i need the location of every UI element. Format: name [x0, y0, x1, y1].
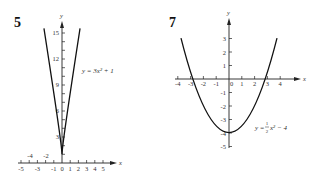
- x-tick-label: -1: [51, 165, 56, 172]
- problem-number-7: 7: [169, 15, 176, 30]
- y-tick-label: -1: [221, 89, 226, 96]
- x-tick-label: 0: [60, 165, 63, 172]
- x-tick-label: -1: [213, 80, 218, 87]
- y-tick-label: -2: [221, 103, 226, 110]
- extra-label: -2: [43, 152, 48, 159]
- x-tick-label: -3: [35, 165, 40, 172]
- x-axis-label: x: [302, 75, 306, 82]
- y-axis-label: y: [59, 12, 63, 19]
- y-tick-label: 1: [223, 62, 226, 69]
- x-tick-label: -2: [201, 80, 206, 87]
- y-tick-label: 3: [56, 133, 59, 140]
- y-tick-label: 15: [53, 29, 60, 36]
- x-tick-label: 1: [240, 80, 243, 87]
- x-tick-label: 3: [266, 80, 269, 87]
- x-tick-label: 3: [85, 165, 88, 172]
- x-tick-label: -3: [188, 80, 193, 87]
- x-tick-label: 2: [77, 165, 80, 172]
- x-tick-label: -4: [175, 80, 181, 87]
- x-tick-label: 0: [230, 80, 233, 87]
- y-tick-label: -5: [221, 143, 226, 150]
- svg-text:y =: y =: [254, 124, 265, 132]
- y-axis-arrow-icon: [227, 18, 231, 25]
- problem-number-5: 5: [14, 15, 21, 30]
- equation-label: y = 3x² + 1: [81, 67, 114, 75]
- chart-problem-7: 7 y 3 2 1 -1 -2 -3 -4 -5 x: [169, 9, 306, 150]
- x-axis-label: x: [118, 159, 122, 166]
- svg-text:1: 1: [266, 121, 269, 126]
- figure-canvas: 5 y 3 6 9 12 15 x: [0, 0, 316, 172]
- y-axis-label: y: [226, 9, 230, 16]
- extra-label: -4: [27, 152, 33, 159]
- y-tick-label: 12: [53, 55, 60, 62]
- y-tick-label: 9: [56, 81, 59, 88]
- x-tick-label: 1: [69, 165, 72, 172]
- y-tick-label: -3: [221, 116, 226, 123]
- x-tick-label: 5: [101, 165, 104, 172]
- chart-problem-5: 5 y 3 6 9 12 15 x: [14, 12, 122, 172]
- x-axis-arrow-icon: [110, 161, 117, 165]
- y-tick-label: 3: [223, 35, 226, 42]
- x-tick-label: 4: [93, 165, 97, 172]
- svg-text:2: 2: [266, 129, 269, 134]
- y-tick-label: 2: [223, 49, 226, 56]
- svg-text:x² − 4: x² − 4: [269, 124, 287, 132]
- x-tick-label: 2: [253, 80, 256, 87]
- x-tick-label: 4: [279, 80, 283, 87]
- y-axis-arrow-icon: [60, 21, 64, 28]
- x-axis-arrow-icon: [294, 77, 301, 81]
- x-tick-label: -5: [18, 165, 23, 172]
- equation-label: y = 1 2 x² − 4: [254, 121, 287, 134]
